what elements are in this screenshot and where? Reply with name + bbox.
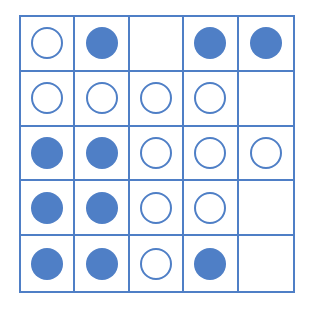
empty-circle-icon (194, 137, 226, 169)
empty-circle-icon (140, 137, 172, 169)
grid-cell-r4-c2 (75, 181, 129, 236)
grid-cell-r5-c3 (130, 236, 184, 291)
filled-circle-icon (31, 192, 63, 224)
grid-cell-r2-c2 (75, 72, 129, 127)
empty-circle-icon (31, 27, 63, 59)
grid-cell-r1-c5 (239, 17, 293, 72)
grid-cell-r1-c2 (75, 17, 129, 72)
grid-cell-r4-c3 (130, 181, 184, 236)
filled-circle-icon (250, 27, 282, 59)
grid-cell-r2-c5 (239, 72, 293, 127)
grid-cell-r5-c1 (21, 236, 75, 291)
grid-cell-r1-c3 (130, 17, 184, 72)
grid-cell-r3-c4 (184, 127, 238, 182)
grid-cell-r4-c1 (21, 181, 75, 236)
empty-circle-icon (31, 82, 63, 114)
grid-cell-r3-c3 (130, 127, 184, 182)
grid-cell-r3-c1 (21, 127, 75, 182)
empty-circle-icon (194, 82, 226, 114)
empty-circle-icon (86, 82, 118, 114)
grid-cell-r4-c5 (239, 181, 293, 236)
filled-circle-icon (194, 27, 226, 59)
empty-circle-icon (140, 192, 172, 224)
grid-cell-r3-c2 (75, 127, 129, 182)
dot-grid (19, 15, 295, 293)
filled-circle-icon (31, 137, 63, 169)
grid-cell-r4-c4 (184, 181, 238, 236)
filled-circle-icon (86, 27, 118, 59)
grid-cell-r5-c5 (239, 236, 293, 291)
grid-cell-r2-c1 (21, 72, 75, 127)
grid-cell-r1-c4 (184, 17, 238, 72)
grid-cell-r2-c3 (130, 72, 184, 127)
grid-cell-r3-c5 (239, 127, 293, 182)
filled-circle-icon (86, 137, 118, 169)
filled-circle-icon (194, 248, 226, 280)
grid-cell-r5-c4 (184, 236, 238, 291)
grid-cell-r2-c4 (184, 72, 238, 127)
empty-circle-icon (140, 248, 172, 280)
empty-circle-icon (194, 192, 226, 224)
empty-circle-icon (250, 137, 282, 169)
filled-circle-icon (86, 248, 118, 280)
grid-cell-r1-c1 (21, 17, 75, 72)
filled-circle-icon (86, 192, 118, 224)
filled-circle-icon (31, 248, 63, 280)
grid-cell-r5-c2 (75, 236, 129, 291)
empty-circle-icon (140, 82, 172, 114)
